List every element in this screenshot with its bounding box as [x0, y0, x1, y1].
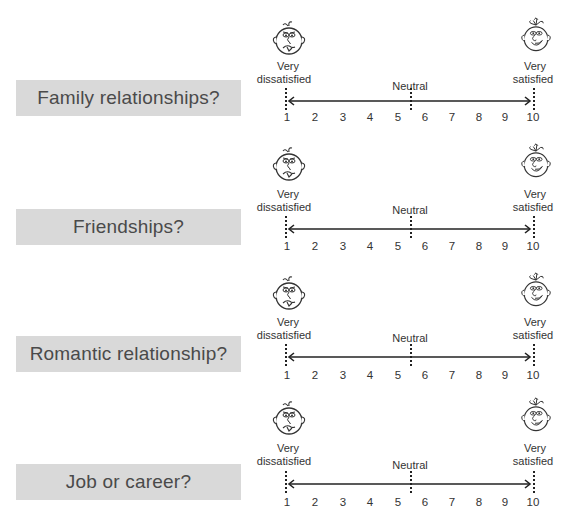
scale-number-4[interactable]: 4	[360, 496, 380, 508]
scale-number-3[interactable]: 3	[333, 496, 353, 508]
scale-number-8[interactable]: 8	[469, 496, 489, 508]
scale-number-7[interactable]: 7	[442, 496, 462, 508]
rating-section-4: Job or career? Very dissatisfied	[0, 0, 567, 521]
scale-number-1[interactable]: 1	[277, 496, 297, 508]
scale-number-2[interactable]: 2	[305, 496, 325, 508]
scale-number-5[interactable]: 5	[388, 496, 408, 508]
scale-number-9[interactable]: 9	[495, 496, 515, 508]
rating-scale-line[interactable]	[0, 0, 567, 521]
scale-number-6[interactable]: 6	[415, 496, 435, 508]
scale-number-10[interactable]: 10	[523, 496, 543, 508]
